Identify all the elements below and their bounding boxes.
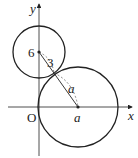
radius-large-label: a [68, 82, 75, 95]
origin-label: O [27, 111, 36, 124]
small-center-dot [37, 50, 40, 53]
center-line [39, 52, 78, 107]
y-axis-label: y [30, 2, 36, 15]
diagram: y x O 6 3 a a [0, 0, 138, 158]
radius-small-label: 3 [47, 56, 54, 69]
large-center-dot [76, 105, 79, 108]
x-axis-label: x [128, 109, 134, 122]
diagram-svg [0, 0, 138, 158]
large-center-label: a [74, 111, 81, 124]
small-center-label: 6 [28, 46, 35, 59]
